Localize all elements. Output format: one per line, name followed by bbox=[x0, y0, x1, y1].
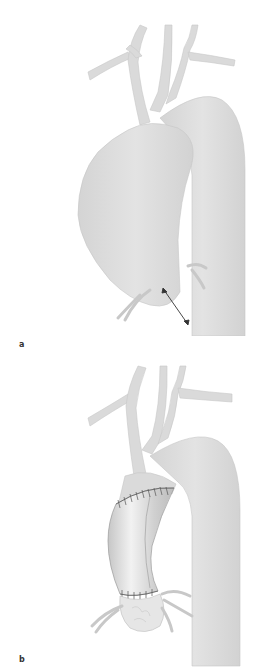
aortic-arch bbox=[150, 437, 240, 666]
figure-panel-a bbox=[0, 0, 262, 336]
figure-panel-b bbox=[0, 336, 262, 672]
panel-label-b: b bbox=[19, 655, 25, 664]
graft-repair-illustration bbox=[0, 336, 262, 672]
aneurysm-illustration bbox=[0, 0, 262, 336]
aortic-root bbox=[120, 594, 164, 632]
tube-graft bbox=[108, 488, 174, 596]
ascending-aortic-aneurysm bbox=[78, 123, 193, 306]
